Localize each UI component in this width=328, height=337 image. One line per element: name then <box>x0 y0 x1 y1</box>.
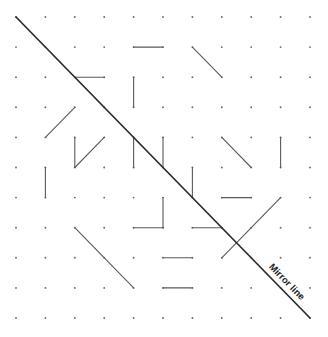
grid-dot <box>191 16 193 18</box>
line-segment <box>75 228 134 288</box>
grid-dot <box>309 106 311 108</box>
grid-dot <box>250 317 252 319</box>
grid-dot <box>15 227 17 229</box>
grid-dot <box>15 287 17 289</box>
grid-dot <box>15 106 17 108</box>
grid-dot <box>280 317 282 319</box>
grid-dot <box>309 136 311 138</box>
grid-dot <box>44 317 46 319</box>
grid-dot <box>103 287 105 289</box>
grid-dot <box>191 317 193 319</box>
line-segment <box>222 137 251 167</box>
grid-dot <box>280 227 282 229</box>
mirror-line <box>16 17 310 318</box>
grid-dot <box>250 76 252 78</box>
grid-dot <box>309 46 311 48</box>
line-segment <box>192 47 221 77</box>
grid-dot <box>221 317 223 319</box>
grid-dot <box>309 197 311 199</box>
grid-dot <box>15 46 17 48</box>
grid-dot <box>162 16 164 18</box>
grid-dot <box>74 197 76 199</box>
grid-dot <box>280 16 282 18</box>
grid-dot <box>15 136 17 138</box>
grid-dot <box>221 46 223 48</box>
grid-dot <box>15 167 17 169</box>
line-segment <box>45 107 74 137</box>
dot-grid-canvas <box>0 0 328 337</box>
grid-dot <box>280 257 282 259</box>
grid-dot <box>250 287 252 289</box>
grid-dot <box>162 106 164 108</box>
grid-dot <box>221 167 223 169</box>
line-segment <box>222 198 281 258</box>
grid-dot <box>280 76 282 78</box>
grid-dot <box>44 16 46 18</box>
grid-dot <box>250 106 252 108</box>
grid-dot <box>250 136 252 138</box>
grid-dot <box>221 106 223 108</box>
grid-dot <box>15 76 17 78</box>
grid-dot <box>133 317 135 319</box>
grid-dot <box>309 287 311 289</box>
grid-dot <box>309 227 311 229</box>
grid-dot <box>133 197 135 199</box>
grid-dot <box>103 167 105 169</box>
grid-dot <box>103 197 105 199</box>
grid-dot <box>44 227 46 229</box>
grid-dot <box>15 197 17 199</box>
grid-dot <box>191 76 193 78</box>
line-segment <box>75 137 104 167</box>
grid-dot <box>162 317 164 319</box>
grid-dot <box>191 136 193 138</box>
grid-dot <box>133 257 135 259</box>
grid-dot <box>162 76 164 78</box>
grid-dot <box>103 16 105 18</box>
grid-dot <box>280 106 282 108</box>
grid-dot <box>309 76 311 78</box>
grid-dot <box>221 16 223 18</box>
grid-dot <box>44 257 46 259</box>
grid-dot <box>74 317 76 319</box>
grid-dot <box>309 257 311 259</box>
grid-dot <box>309 16 311 18</box>
grid-dot <box>44 76 46 78</box>
grid-dot <box>44 287 46 289</box>
grid-dot <box>191 106 193 108</box>
grid-dot <box>103 227 105 229</box>
grid-dot <box>44 106 46 108</box>
grid-dot <box>221 287 223 289</box>
grid-dot <box>74 257 76 259</box>
grid-dot <box>103 46 105 48</box>
grid-dot <box>103 317 105 319</box>
grid-dot <box>74 287 76 289</box>
grid-dot <box>133 16 135 18</box>
grid-dot <box>74 46 76 48</box>
grid-dot <box>280 46 282 48</box>
grid-dot <box>74 16 76 18</box>
grid-dot <box>250 46 252 48</box>
grid-dot <box>15 317 17 319</box>
grid-dot <box>15 257 17 259</box>
grid-dot <box>250 16 252 18</box>
grid-dot <box>309 167 311 169</box>
